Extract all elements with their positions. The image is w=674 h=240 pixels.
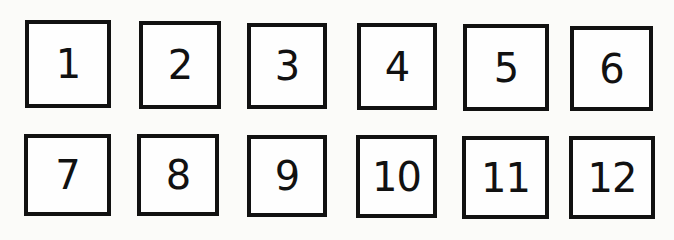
box-label: 10 — [372, 154, 421, 200]
box-3: 3 — [247, 23, 327, 109]
box-7: 7 — [24, 134, 111, 216]
box-8: 8 — [137, 134, 219, 216]
box-5: 5 — [463, 24, 549, 111]
box-9: 9 — [247, 135, 327, 217]
box-label: 4 — [385, 44, 409, 90]
box-label: 2 — [168, 42, 192, 88]
box-1: 1 — [25, 20, 111, 108]
box-11: 11 — [462, 136, 549, 219]
box-2: 2 — [139, 21, 221, 109]
box-label: 1 — [56, 41, 80, 87]
box-label: 8 — [166, 152, 190, 198]
box-6: 6 — [570, 26, 653, 111]
box-label: 5 — [494, 45, 518, 91]
box-label: 3 — [275, 43, 299, 89]
box-label: 7 — [55, 152, 79, 198]
box-label: 11 — [481, 155, 530, 201]
box-label: 6 — [599, 46, 623, 92]
box-12: 12 — [569, 136, 655, 219]
box-label: 9 — [275, 153, 299, 199]
box-label: 12 — [588, 155, 637, 201]
box-10: 10 — [356, 135, 437, 218]
box-4: 4 — [357, 23, 437, 110]
